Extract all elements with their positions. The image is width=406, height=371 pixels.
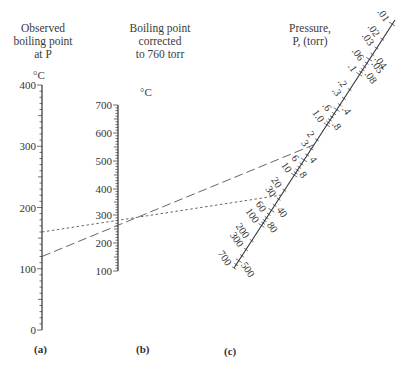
axis-c-tick [236, 259, 242, 263]
axis-b-tick-label: 300 [96, 209, 113, 221]
axis-b-tick-label: 100 [96, 265, 113, 277]
axis-c-right-label: .4 [340, 104, 354, 117]
axis-c-left-label: .06 [350, 46, 367, 63]
axis-c-left-label: .01 [375, 7, 392, 24]
axis-a-tick-label: 400 [20, 79, 37, 91]
axis-c-line [234, 20, 395, 268]
axis-c-left-label: 700 [216, 248, 234, 267]
axis-c-right-label: 40 [275, 205, 290, 220]
axis-c-tick [301, 158, 307, 162]
axis-c-right-label: .8 [330, 119, 344, 132]
axis-b-tick-label: 700 [96, 99, 113, 111]
axis-c-tick [291, 173, 297, 177]
axis-a-tick-label: 100 [20, 263, 37, 275]
axis-a-tick-label: 0 [31, 324, 37, 336]
axis-c-tick [259, 224, 265, 228]
axis-c-right-label: 500 [239, 260, 257, 279]
axis-c-left-label: .1 [346, 61, 360, 74]
axis-c-tick [268, 208, 274, 212]
axis-c-left-label: 6 [289, 153, 301, 164]
axis-a-tick-label: 300 [20, 140, 37, 152]
axis-a-tick-label: 200 [20, 202, 37, 214]
axis-b-tick-label: 500 [96, 155, 113, 167]
axis-c-right-label: 80 [265, 220, 280, 235]
axis-b-tick-label: 400 [96, 183, 113, 195]
axis-b-tick-label: 200 [96, 237, 113, 249]
nomograph: 0100200300400100200300400500600700.01.02… [0, 0, 406, 371]
axis-b-tick-label: 600 [96, 127, 113, 139]
axis-c-left-label: .3 [330, 85, 344, 98]
dashed-alignment-line [42, 145, 314, 257]
